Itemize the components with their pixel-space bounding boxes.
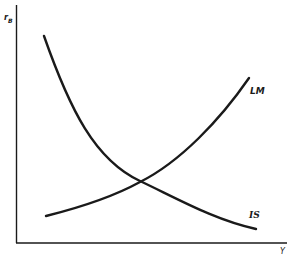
is-lm-diagram: [0, 0, 290, 269]
y-axis-label: rB: [4, 13, 13, 24]
x-axis-label: Y: [280, 247, 285, 256]
is-curve-label: IS: [249, 210, 260, 220]
lm-curve-label: LM: [250, 86, 265, 96]
is-curve: [44, 36, 256, 229]
y-axis-label-subscript: B: [8, 17, 13, 24]
lm-curve: [46, 78, 249, 216]
